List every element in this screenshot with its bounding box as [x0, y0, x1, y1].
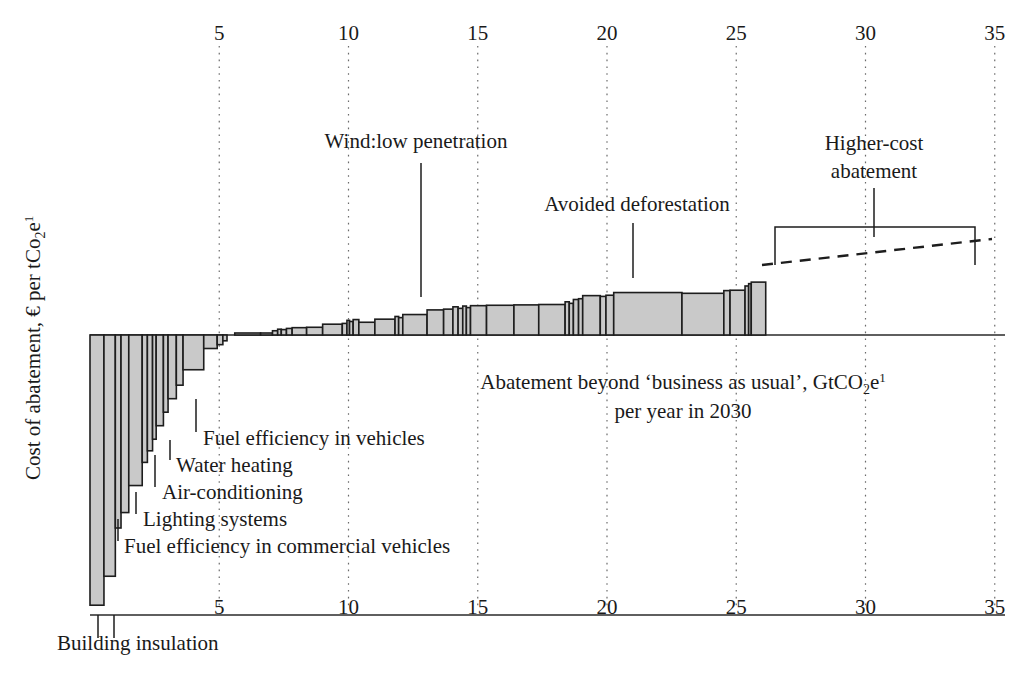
negative-cost-bar	[168, 335, 176, 399]
top-tick-label-30: 30	[855, 21, 876, 45]
top-tick-label-5: 5	[214, 21, 225, 45]
negative-cost-bar	[223, 335, 227, 341]
annotation-water-heating: Water heating	[176, 453, 293, 477]
top-tick-label-15: 15	[467, 21, 488, 45]
annotation-higher-cost-line2: abatement	[831, 159, 917, 183]
x-axis-title-line1: Abatement beyond ‘business as usual’, Gt…	[480, 370, 885, 397]
positive-cost-bar	[539, 305, 565, 335]
negative-cost-bar	[104, 335, 115, 576]
positive-cost-bar	[600, 296, 606, 335]
positive-cost-bar	[606, 295, 614, 335]
negative-cost-bar	[121, 335, 129, 513]
positive-cost-bar	[359, 322, 375, 335]
positive-cost-bar	[730, 290, 745, 335]
positive-cost-bar	[724, 291, 730, 335]
positive-cost-bar	[583, 296, 601, 335]
top-tick-label-25: 25	[726, 21, 747, 45]
negative-cost-bar	[204, 335, 217, 349]
negative-cost-bar	[129, 335, 142, 486]
top-axis-tick-labels: 5101520253035	[214, 21, 1005, 45]
annotation-leader-lines	[98, 163, 874, 638]
positive-cost-bar	[307, 327, 323, 335]
positive-cost-bar	[444, 309, 453, 335]
positive-cost-bar	[375, 319, 395, 335]
positive-cost-bar	[471, 306, 487, 335]
negative-cost-bar	[183, 335, 204, 370]
negative-cost-bar	[115, 335, 121, 528]
abatement-cost-curve-chart: 5101520253035 5101520253035 Wind:low pen…	[0, 0, 1033, 692]
higher-cost-extrapolation-dashed-line	[762, 239, 992, 265]
positive-cost-bar	[323, 324, 343, 335]
negative-cost-bar	[217, 335, 223, 345]
positive-cost-bar	[286, 328, 292, 335]
positive-cost-bar	[751, 282, 765, 335]
positive-cost-bar	[353, 320, 359, 335]
positive-cost-bar	[514, 305, 539, 335]
positive-cost-bar	[427, 310, 444, 335]
y-axis-title-group: Cost of abatement, € per tCo2e1	[21, 216, 48, 480]
positive-cost-bar	[487, 305, 514, 335]
annotation-building-insulation: Building insulation	[57, 631, 219, 655]
annotation-lighting-systems: Lighting systems	[143, 507, 287, 531]
positive-cost-bar	[235, 333, 261, 335]
chart-canvas: 5101520253035 5101520253035 Wind:low pen…	[0, 0, 1033, 692]
annotation-air-conditioning: Air-conditioning	[162, 480, 303, 504]
positive-cost-bar	[614, 293, 682, 335]
annotation-avoided-deforestation: Avoided deforestation	[544, 192, 730, 216]
annotation-fuel-efficiency-commercial-vehicles: Fuel efficiency in commercial vehicles	[124, 534, 450, 558]
negative-cost-bar	[176, 335, 183, 385]
x-axis-title-line2: per year in 2030	[614, 399, 751, 423]
positive-cost-bar	[292, 328, 306, 335]
negative-cost-bar	[156, 335, 163, 426]
positive-cost-bar	[682, 293, 724, 335]
top-tick-label-10: 10	[338, 21, 359, 45]
top-tick-label-35: 35	[984, 21, 1005, 45]
annotation-wind-low-penetration: Wind:low penetration	[325, 129, 508, 153]
annotation-higher-cost-line1: Higher-cost	[825, 131, 924, 155]
positive-cost-bar	[261, 333, 273, 335]
positive-cost-bars-group	[235, 282, 766, 335]
y-axis-title: Cost of abatement, € per tCo2e1	[21, 216, 48, 480]
annotation-fuel-efficiency-in-vehicles: Fuel efficiency in vehicles	[203, 426, 425, 450]
positive-cost-bar	[403, 315, 427, 335]
negative-cost-bar	[90, 335, 104, 605]
top-tick-label-20: 20	[597, 21, 618, 45]
